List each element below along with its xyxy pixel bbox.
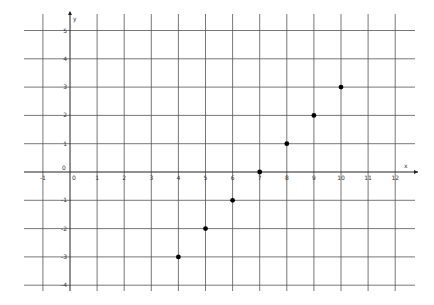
x-tick-label: 2 — [122, 174, 126, 181]
y-tick-label: -1 — [61, 196, 67, 203]
x-tick-label: 8 — [285, 174, 289, 181]
data-point — [257, 170, 262, 175]
x-tick-label: 4 — [176, 174, 180, 181]
data-point — [284, 141, 289, 146]
x-tick-label: 1 — [95, 174, 99, 181]
y-tick-label: -3 — [61, 253, 67, 260]
x-tick-label: 5 — [204, 174, 208, 181]
y-tick-label: 2 — [63, 111, 67, 118]
data-point — [339, 85, 344, 90]
x-tick-label: 0 — [72, 174, 76, 181]
axes — [24, 11, 418, 291]
x-tick-label: 9 — [312, 174, 316, 181]
y-tick-label: 1 — [63, 140, 67, 147]
coordinate-plane: -10123456789101112-4-3-2-112345 x y 0 — [0, 0, 434, 305]
x-tick-label: 11 — [364, 174, 372, 181]
x-tick-label: 7 — [258, 174, 262, 181]
grid-lines — [24, 14, 415, 291]
data-point — [312, 113, 317, 118]
x-tick-label: 12 — [391, 174, 399, 181]
x-tick-label: 6 — [231, 174, 235, 181]
data-point — [203, 226, 208, 231]
y-axis-arrow-icon — [68, 11, 72, 15]
origin-label: 0 — [62, 164, 66, 171]
y-tick-label: 3 — [63, 83, 67, 90]
x-axis-label: x — [404, 162, 408, 169]
y-tick-label: 4 — [63, 55, 67, 62]
tick-labels: -10123456789101112-4-3-2-112345 — [40, 27, 399, 289]
y-tick-label: -2 — [61, 225, 67, 232]
y-axis-label: y — [73, 15, 77, 23]
x-tick-label: -1 — [40, 174, 46, 181]
x-axis-arrow-icon — [414, 170, 418, 174]
data-point — [230, 198, 235, 203]
x-tick-label: 10 — [337, 174, 345, 181]
x-tick-label: 3 — [149, 174, 153, 181]
y-tick-label: -4 — [61, 281, 67, 288]
y-tick-label: 5 — [63, 27, 67, 34]
data-point — [176, 255, 181, 260]
